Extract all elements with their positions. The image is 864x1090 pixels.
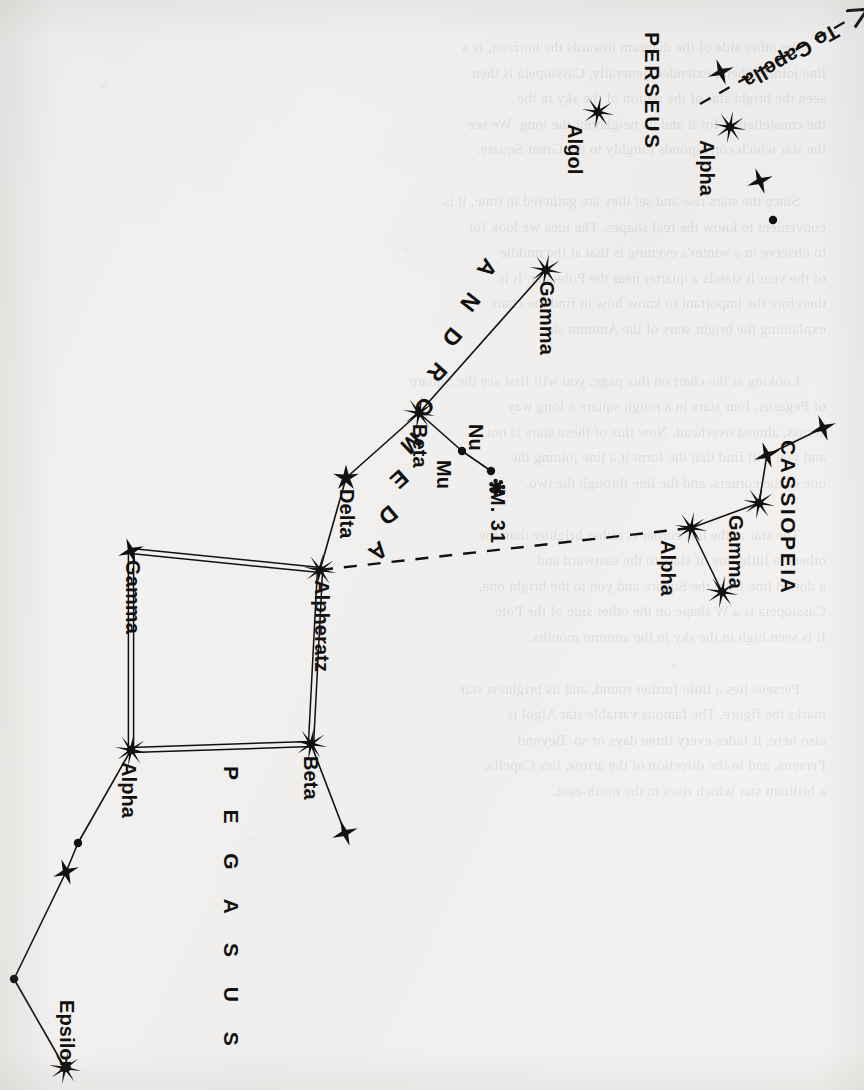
constellation-line-and_alpheratz-peg_beta [308,570,322,744]
star-peg_beta_sw [332,820,357,845]
star-cas_epsilon [810,415,835,440]
star-cas_alpha [675,512,707,544]
constellation-line-peg_alpha-peg_chain_1 [78,750,131,843]
star-peg_chain_3 [10,975,18,983]
star-peg_alpha [115,734,147,766]
star-per_up [708,59,733,84]
star-and_alpheratz [304,554,336,586]
star-cas_delta [754,442,779,467]
constellation-line-peg_gamma-and_alpheratz [131,548,321,572]
constellation-line-peg_alpha-peg_gamma [128,551,133,750]
star-peg_beta [295,728,327,760]
constellation-line-cas_alpha-cas_beta [691,528,722,592]
star-cas_beta [706,576,738,608]
constellation-line-peg_beta-peg_beta_sw [311,744,345,833]
constellation-line-and_alpheratz-and_delta [320,478,346,570]
constellation-line-peg_chain_3-peg_epsilon [14,979,65,1068]
constellation-line-and_delta-and_beta [346,413,419,478]
star-and_gamma [530,254,562,286]
star-peg_gamma [118,538,143,563]
constellation-line-cas_alpha-cas_gamma [691,503,759,528]
constellation-line-and_beta-and_mu [419,413,462,451]
star-peg_epsilon [49,1052,81,1084]
to-capella-arrow [700,18,852,104]
star-and_mu [458,447,466,455]
star-and_beta [403,397,435,429]
star-chart: GammaAlpheratzAlphaBetaEpsilonDeltaBetaG… [0,0,864,1090]
star-peg_chain_1 [74,839,82,847]
scanned-page: the other side of the diagram towards th… [0,0,864,1090]
star-and_delta [333,465,359,489]
constellation-line-and_mu-and_nu [462,451,491,471]
constellation-line-peg_chain_1-peg_chain_2 [66,843,78,872]
constellation-lines-layer [14,270,823,1068]
constellation-line-peg_chain_2-peg_chain_3 [14,872,66,979]
constellation-line-and_alpheratz-cas_alpha [320,528,691,570]
star-peg_chain_2 [53,859,78,884]
sky-canvas [0,0,864,1090]
constellation-line-and_beta-and_gamma [419,270,546,413]
star-per_low [747,168,772,193]
star-and_nu [487,467,495,475]
star-per_dot [769,216,777,224]
star-per_alpha [714,111,746,143]
star-per_algol [582,96,614,128]
direction-arrows-layer [700,18,852,104]
constellation-line-peg_beta-peg_alpha [131,741,311,752]
galaxy-m31-icon [489,479,505,495]
star-cas_gamma [743,487,775,519]
